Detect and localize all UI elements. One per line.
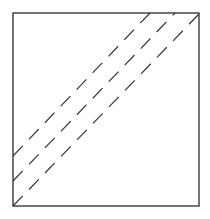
square-outline: [13, 13, 199, 206]
diagram-figure: [0, 0, 210, 219]
dashed-offset-line-1: [13, 13, 175, 181]
dashed-main-diagonal: [13, 14, 199, 206]
diagram-canvas: [0, 0, 210, 219]
